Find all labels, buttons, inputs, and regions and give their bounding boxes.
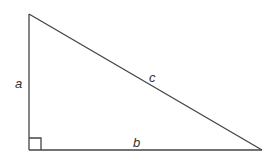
right-triangle-diagram: a b c [0, 0, 279, 161]
triangle [29, 14, 262, 150]
label-b: b [133, 135, 140, 150]
label-a: a [15, 76, 22, 91]
label-c: c [149, 70, 156, 85]
right-angle-marker [29, 138, 41, 150]
hypotenuse-c-line [29, 14, 262, 150]
